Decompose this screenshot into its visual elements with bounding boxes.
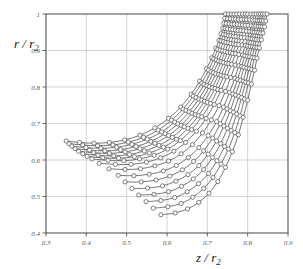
data-point-marker	[230, 150, 234, 154]
data-point-marker	[249, 82, 253, 86]
data-point-marker	[236, 133, 240, 137]
data-point-marker	[144, 200, 148, 204]
data-point-marker	[170, 135, 174, 139]
data-point-marker	[174, 163, 178, 167]
data-point-marker	[173, 195, 177, 199]
data-point-marker	[257, 46, 261, 50]
data-point-marker	[197, 145, 201, 149]
data-point-marker	[113, 162, 117, 166]
data-point-marker	[144, 160, 148, 164]
data-point-marker	[206, 171, 210, 175]
data-point-marker	[178, 139, 182, 143]
data-point-marker	[107, 167, 111, 171]
data-point-marker	[219, 162, 223, 166]
x-tick-label: 0.8	[243, 239, 252, 247]
data-point-marker	[192, 159, 196, 163]
data-point-marker	[147, 172, 151, 176]
data-point-marker	[152, 192, 156, 196]
data-point-marker	[103, 149, 107, 153]
data-point-marker	[114, 145, 118, 149]
data-point-marker	[87, 148, 91, 152]
data-point-marker	[265, 12, 269, 16]
data-point-marker	[159, 213, 163, 217]
data-point-marker	[167, 190, 171, 194]
data-point-marker	[219, 88, 223, 92]
data-point-marker	[90, 157, 94, 161]
data-point-marker	[151, 206, 155, 210]
y-tick-label: 0.8	[31, 84, 40, 92]
data-point-marker	[252, 68, 256, 72]
data-point-marker	[85, 154, 89, 158]
data-point-marker	[116, 173, 120, 177]
data-point-marker	[130, 186, 134, 190]
data-point-marker	[81, 152, 85, 156]
data-point-marker	[215, 139, 219, 143]
data-point-marker	[129, 162, 133, 166]
data-point-marker	[160, 184, 164, 188]
data-point-marker	[132, 155, 136, 159]
x-tick-label: 0.7	[203, 239, 212, 247]
data-point-marker	[137, 193, 141, 197]
data-point-marker	[174, 137, 178, 141]
data-point-marker	[255, 56, 259, 60]
data-point-marker	[216, 179, 220, 183]
data-point-marker	[202, 186, 206, 190]
data-point-marker	[172, 149, 176, 153]
data-point-marker	[200, 115, 204, 119]
chart-svg: 0.30.40.50.60.70.80.90.40.50.60.70.80.91…	[0, 0, 303, 269]
data-point-marker	[174, 179, 178, 183]
x-tick-label: 0.4	[82, 239, 91, 247]
data-point-marker	[161, 169, 165, 173]
data-point-marker	[179, 152, 183, 156]
data-point-marker	[152, 153, 156, 157]
data-point-marker	[180, 168, 184, 172]
data-point-marker	[191, 195, 195, 199]
data-point-marker	[197, 163, 201, 167]
data-point-marker	[219, 141, 223, 145]
data-point-marker	[204, 116, 208, 120]
data-point-marker	[168, 174, 172, 178]
data-point-marker	[206, 152, 210, 156]
data-point-marker	[202, 167, 206, 171]
data-point-marker	[166, 147, 170, 151]
y-tick-label: 0.6	[31, 157, 40, 165]
data-point-marker	[202, 149, 206, 153]
data-point-marker	[137, 157, 141, 161]
data-point-marker	[190, 143, 194, 147]
data-point-marker	[215, 159, 219, 163]
data-point-marker	[153, 164, 157, 168]
data-point-marker	[207, 191, 211, 195]
data-point-marker	[157, 143, 161, 147]
data-point-marker	[183, 140, 187, 144]
data-point-marker	[210, 136, 214, 140]
data-point-marker	[194, 129, 198, 133]
data-point-marker	[153, 141, 157, 145]
chart-figure: 0.30.40.50.60.70.80.90.40.50.60.70.80.91…	[0, 0, 303, 269]
data-point-marker	[138, 147, 142, 151]
data-point-marker	[212, 102, 216, 106]
data-point-marker	[206, 133, 210, 137]
data-point-marker	[185, 190, 189, 194]
data-point-marker	[259, 38, 263, 42]
data-point-marker	[211, 175, 215, 179]
data-point-marker	[119, 148, 123, 152]
data-point-marker	[226, 147, 230, 151]
data-point-marker	[246, 98, 250, 102]
data-point-marker	[186, 155, 190, 159]
data-point-marker	[263, 25, 267, 29]
data-point-marker	[138, 167, 142, 171]
data-point-marker	[200, 131, 204, 135]
data-point-marker	[166, 205, 170, 209]
data-point-marker	[191, 177, 195, 181]
y-tick-label: 1	[37, 11, 41, 19]
data-point-marker	[264, 19, 268, 23]
data-point-marker	[154, 178, 158, 182]
data-point-marker	[167, 159, 171, 163]
data-point-marker	[149, 139, 153, 143]
data-point-marker	[185, 207, 189, 211]
data-point-marker	[77, 149, 81, 153]
data-point-marker	[97, 161, 101, 165]
data-point-marker	[139, 180, 143, 184]
data-point-marker	[146, 186, 150, 190]
data-point-marker	[179, 184, 183, 188]
